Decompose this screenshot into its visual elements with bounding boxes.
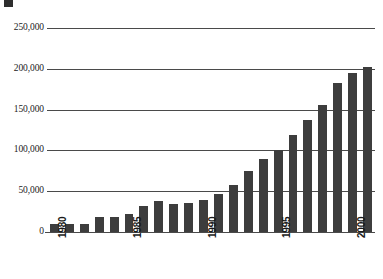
y-tick-label-150000: 150,000 [0,105,44,115]
bar-1987 [154,201,163,232]
bar-1993 [244,171,253,232]
y-tick-label-100000: 100,000 [0,145,44,155]
x-tick-label-1995: 1995 [282,217,292,238]
bar-1984 [110,217,119,232]
y-tick-label-250000: 250,000 [0,23,44,33]
bar-chart: 250,000200,000150,000100,00050,0000 1980… [0,0,383,279]
x-tick-label-2000: 2000 [357,217,367,238]
bar-1992 [229,185,238,232]
bar-1998 [318,105,327,232]
bar-1982 [80,224,89,232]
bar-1997 [303,120,312,232]
bar-1989 [184,203,193,232]
bar-1999 [333,83,342,232]
bar-2000 [348,73,357,232]
y-tick-label-50000: 50,000 [0,186,44,196]
y-tick-label-200000: 200,000 [0,64,44,74]
bar-2001 [363,67,372,232]
bar-1983 [95,217,104,232]
gridline-250000 [47,28,375,29]
x-tick-label-1990: 1990 [208,217,218,238]
bar-1988 [169,204,178,232]
x-tick-label-1980: 1980 [58,217,68,238]
plot-area [47,28,375,232]
gridline-200000 [47,69,375,70]
x-tick-label-1985: 1985 [133,217,143,238]
bar-1994 [259,159,268,232]
y-tick-label-0: 0 [0,227,44,237]
